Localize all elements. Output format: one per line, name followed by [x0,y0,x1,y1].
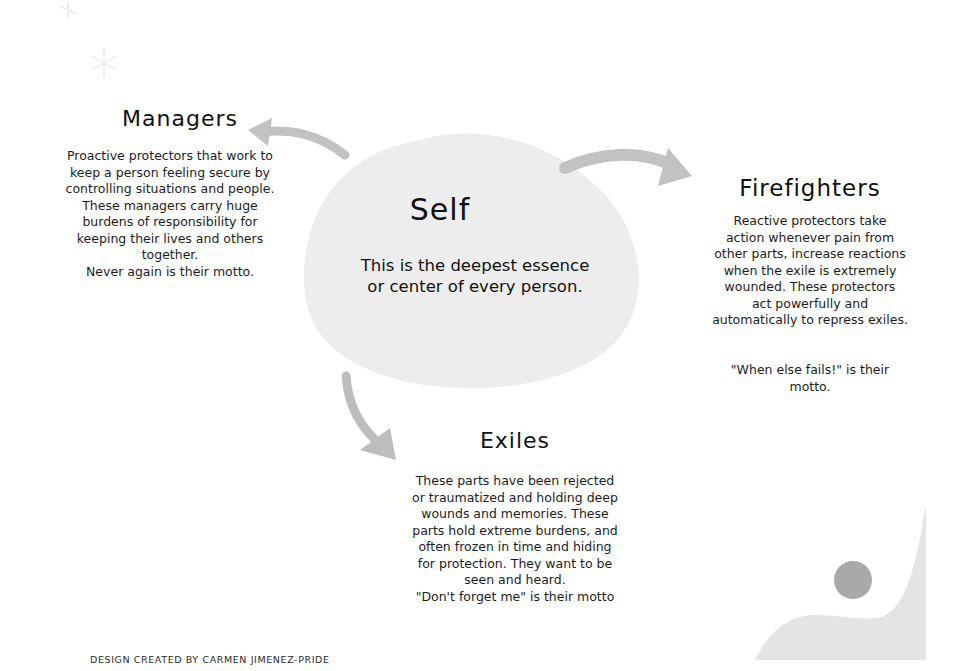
self-title: Self [380,192,500,227]
firefighters-description: Reactive protectors take action whenever… [690,213,930,329]
exiles-title: Exiles [430,428,600,453]
firefighters-motto: "When else fails!" is their motto. [690,362,930,395]
corner-circle [834,561,872,599]
design-credit: DESIGN CREATED BY CARMEN JIMENEZ-PRIDE [90,654,330,665]
exiles-description: These parts have been rejected or trauma… [390,473,640,605]
self-description: This is the deepest essence or center of… [335,255,615,297]
managers-title: Managers [80,106,280,131]
arrow-to-exiles-icon [346,376,396,460]
firefighters-title: Firefighters [700,175,920,201]
sparkle-icon [60,2,116,78]
managers-description: Proactive protectors that work to keep a… [40,148,300,280]
